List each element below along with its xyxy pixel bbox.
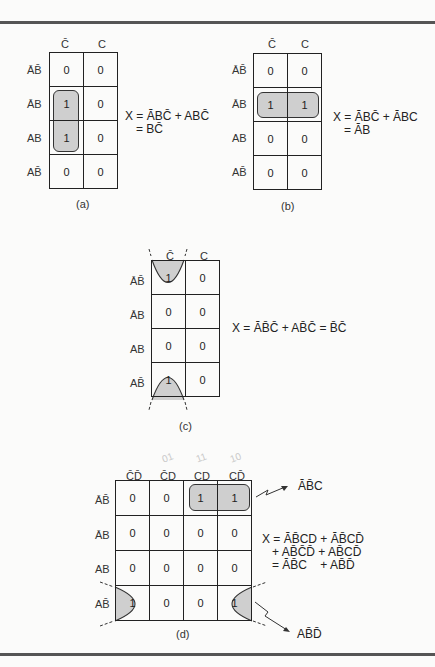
cell: 0 <box>150 551 184 586</box>
kmap-grid: 0 0 1 1 0 0 0 0 0 0 0 0 1 0 0 1 <box>115 480 252 621</box>
cell: 1 <box>116 586 150 621</box>
expression-line: = ĀB̄C + AB̄D̄ <box>272 559 355 572</box>
cell: 1 <box>218 481 252 516</box>
callout-term: ĀB̄C <box>298 480 323 493</box>
cell: 0 <box>116 551 150 586</box>
cell: 0 <box>184 551 218 586</box>
cell: 0 <box>218 551 252 586</box>
cell: 1 <box>184 481 218 516</box>
cell: 0 <box>116 481 150 516</box>
cell: 1 <box>218 586 252 621</box>
cell: 0 <box>150 516 184 551</box>
panel-caption: (d) <box>176 628 189 640</box>
cell: 0 <box>150 586 184 621</box>
cell: 0 <box>150 481 184 516</box>
cell: 0 <box>116 516 150 551</box>
callout-term: AB̄D̄ <box>297 628 322 641</box>
cell: 0 <box>218 516 252 551</box>
cell: 0 <box>184 586 218 621</box>
cell: 0 <box>184 516 218 551</box>
